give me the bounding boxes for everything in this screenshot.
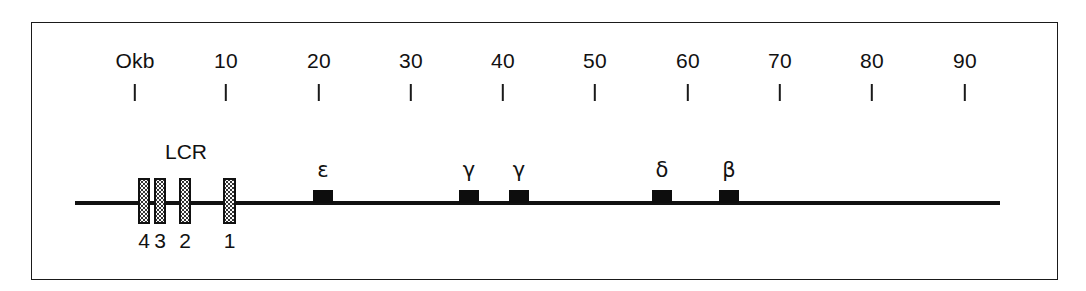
lcr-site-number-label: 2 (179, 230, 191, 251)
globin-gene-label-gamma-A: γ (513, 160, 525, 181)
scale-tick-label: 70 (768, 50, 792, 71)
scale-tick-mark (225, 84, 227, 101)
scale-tick-label: 90 (953, 50, 977, 71)
scale-tick-label: 30 (399, 50, 423, 71)
scale-tick-label: 80 (860, 50, 884, 71)
globin-gene-box-beta (719, 190, 739, 203)
scale-tick-label: 10 (214, 50, 238, 71)
globin-gene-label-epsilon: ε (317, 160, 328, 181)
lcr-site-number-label: 1 (224, 230, 236, 251)
scale-tick-label: Okb (115, 50, 154, 71)
lcr-hypersensitive-site-box (154, 178, 166, 224)
lcr-site-number-label: 4 (138, 230, 150, 251)
globin-locus-figure: Okb102030405060708090 LCR 4321εγγδβ (0, 0, 1086, 291)
scale-tick-label: 50 (583, 50, 607, 71)
scale-tick-label: 20 (307, 50, 331, 71)
chromosome-backbone-line (75, 201, 1000, 205)
scale-tick-mark (318, 84, 320, 101)
globin-gene-label-gamma-G: γ (463, 160, 475, 181)
globin-gene-box-gamma-G (459, 190, 479, 203)
scale-tick-label: 60 (676, 50, 700, 71)
lcr-title-label: LCR (165, 141, 207, 162)
globin-gene-box-epsilon (313, 190, 333, 203)
globin-gene-box-gamma-A (509, 190, 529, 203)
globin-gene-label-delta: δ (656, 160, 669, 181)
scale-tick-mark (964, 84, 966, 101)
scale-tick-label: 40 (491, 50, 515, 71)
scale-tick-mark (502, 84, 504, 101)
scale-tick-mark (871, 84, 873, 101)
globin-gene-box-delta (652, 190, 672, 203)
scale-tick-mark (410, 84, 412, 101)
lcr-hypersensitive-site-box (138, 178, 150, 224)
lcr-hypersensitive-site-box (223, 178, 236, 224)
lcr-site-number-label: 3 (154, 230, 166, 251)
scale-tick-mark (594, 84, 596, 101)
scale-tick-mark (687, 84, 689, 101)
scale-tick-mark (779, 84, 781, 101)
scale-tick-mark (134, 84, 136, 101)
globin-gene-label-beta: β (722, 160, 735, 181)
lcr-hypersensitive-site-box (179, 178, 191, 224)
